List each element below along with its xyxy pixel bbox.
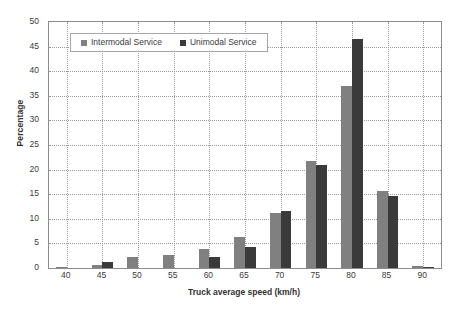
legend-swatch-icon: [81, 40, 87, 46]
x-axis-tick-label: 50: [132, 270, 141, 280]
bar: [127, 257, 138, 268]
x-axis-tick-label: 70: [275, 270, 284, 280]
plot-area: [48, 21, 442, 269]
x-axis-tick-label: 85: [382, 270, 391, 280]
bar-chart: Percentage 05101520253035404550 40455055…: [0, 0, 450, 310]
y-axis-tick-label: 10: [30, 214, 39, 223]
bar: [423, 267, 434, 268]
bar: [270, 213, 281, 268]
x-axis-tick-label: 80: [346, 270, 355, 280]
bar: [377, 191, 388, 268]
x-axis-tick-label: 45: [97, 270, 106, 280]
bar: [412, 266, 423, 268]
bar: [102, 262, 113, 268]
x-axis-tick-labels: 4045505560657075808590: [48, 270, 440, 284]
x-axis-tick-label: 55: [168, 270, 177, 280]
bar: [352, 39, 363, 268]
x-axis-tick-label: 40: [61, 270, 70, 280]
bar: [245, 247, 256, 268]
bar: [281, 211, 292, 268]
x-axis-tick-label: 65: [239, 270, 248, 280]
y-axis-tick-label: 0: [34, 263, 39, 272]
legend-label: Intermodal Service: [91, 38, 162, 47]
y-axis-tick-label: 25: [30, 140, 39, 149]
bar: [209, 257, 220, 268]
legend-swatch-icon: [180, 40, 186, 46]
bar: [234, 237, 245, 268]
legend-entry: Unimodal Service: [180, 38, 257, 47]
bar: [56, 267, 67, 268]
y-axis-tick-label: 15: [30, 189, 39, 198]
x-axis-tick-label: 60: [204, 270, 213, 280]
y-axis-tick-labels: 05101520253035404550: [0, 0, 44, 310]
y-axis-tick-label: 35: [30, 91, 39, 100]
x-axis-tick-label: 90: [417, 270, 426, 280]
chart-legend: Intermodal ServiceUnimodal Service: [70, 33, 268, 52]
bar: [316, 165, 327, 268]
y-axis-tick-label: 30: [30, 115, 39, 124]
y-axis-tick-label: 40: [30, 66, 39, 75]
y-axis-tick-label: 50: [30, 17, 39, 26]
y-axis-tick-label: 45: [30, 41, 39, 50]
bar: [92, 265, 103, 268]
bar: [306, 161, 317, 268]
bars-layer: [49, 22, 441, 268]
y-axis-tick-label: 20: [30, 164, 39, 173]
y-axis-tick-label: 5: [34, 238, 39, 247]
bar: [388, 196, 399, 268]
bar: [341, 86, 352, 268]
x-axis-tick-label: 75: [311, 270, 320, 280]
legend-label: Unimodal Service: [190, 38, 257, 47]
bar: [163, 255, 174, 268]
x-axis-title: Truck average speed (km/h): [48, 287, 440, 297]
legend-entry: Intermodal Service: [81, 38, 162, 47]
bar: [199, 249, 210, 268]
